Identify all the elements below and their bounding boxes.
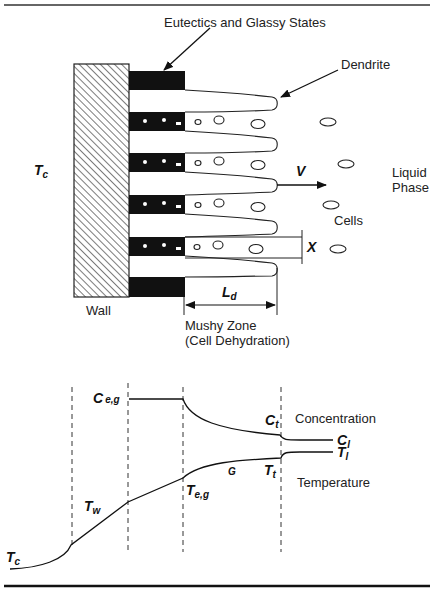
tc-top-symbol: Tc (34, 162, 49, 180)
concentration-label: Concentration (295, 411, 376, 426)
wall (74, 64, 129, 297)
zone-divider-lines (72, 383, 281, 552)
temperature-curve (10, 452, 333, 569)
cells-label: Cells (334, 213, 363, 228)
wall-label: Wall (86, 303, 111, 318)
g-symbol: G (228, 466, 236, 477)
eutectics-pointer-arrow (164, 28, 210, 70)
spacing-symbol: X (306, 239, 318, 255)
ct-symbol: Ct (265, 412, 279, 430)
mushy-zone-label-2: (Cell Dehydration) (185, 333, 290, 348)
freezing-diagram: X V Ld Eutectics and Glassy States Dendr… (0, 0, 444, 593)
tw-symbol: Tw (84, 498, 102, 516)
liquid-phase-label-1: Liquid (392, 165, 427, 180)
ld-symbol: Ld (222, 284, 238, 302)
dendrite-label: Dendrite (341, 57, 390, 72)
tc-bottom-symbol: Tc (6, 549, 21, 567)
liquid-phase-label-2: Phase (392, 180, 429, 195)
dendrite-pointer-arrow (281, 70, 338, 97)
ceg-symbol: Ce,g (93, 390, 120, 406)
velocity-symbol: V (296, 163, 307, 179)
mushy-zone-label-1: Mushy Zone (185, 318, 257, 333)
eutectics-label: Eutectics and Glassy States (164, 15, 326, 30)
block-dots (143, 118, 181, 250)
eutectic-blocks (129, 71, 185, 297)
temperature-label: Temperature (297, 475, 370, 490)
tt-symbol: Tt (264, 462, 277, 480)
teg-symbol: Te,g (186, 482, 209, 500)
